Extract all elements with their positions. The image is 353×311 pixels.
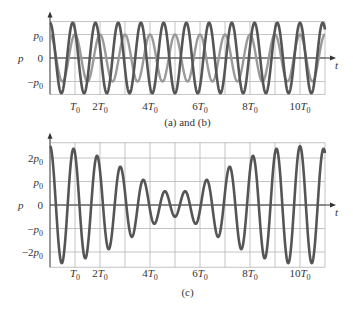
y-tick-label: p0 bbox=[33, 176, 44, 191]
y-axis-arrow-icon bbox=[48, 12, 53, 18]
x-tick-label: 10T0 bbox=[289, 100, 310, 115]
chart-a-and-b: tpp00−p0T02T04T06T08T010T0(a) and (b) bbox=[17, 12, 339, 129]
x-tick-label: 4T0 bbox=[142, 100, 158, 115]
x-tick-label: 8T0 bbox=[242, 100, 258, 115]
chart-c: tp2p0p00−p0−2p0T02T04T06T08T010T0(c) bbox=[17, 133, 339, 299]
y-tick-label: p0 bbox=[33, 29, 44, 44]
x-tick-label: T0 bbox=[70, 267, 80, 282]
y-axis-label: p bbox=[17, 199, 24, 211]
x-tick-label: 4T0 bbox=[142, 267, 158, 282]
y-tick-label: −2p0 bbox=[22, 246, 43, 261]
x-tick-label: 10T0 bbox=[289, 267, 310, 282]
y-tick-label: 0 bbox=[38, 199, 44, 211]
x-tick-label: 6T0 bbox=[192, 267, 208, 282]
x-tick-label: 2T0 bbox=[92, 267, 108, 282]
x-tick-label: T0 bbox=[70, 100, 80, 115]
y-tick-label: −p0 bbox=[27, 76, 43, 91]
x-axis-label: t bbox=[335, 59, 339, 71]
y-tick-label: 0 bbox=[38, 52, 44, 64]
y-tick-label: −p0 bbox=[27, 223, 43, 238]
y-tick-label: 2p0 bbox=[28, 152, 43, 167]
x-tick-label: 6T0 bbox=[192, 100, 208, 115]
y-axis-arrow-icon bbox=[48, 133, 53, 139]
caption-c: (c) bbox=[181, 286, 194, 299]
x-tick-label: 8T0 bbox=[242, 267, 258, 282]
figure: tpp00−p0T02T04T06T08T010T0(a) and (b) tp… bbox=[0, 0, 353, 311]
x-axis-label: t bbox=[335, 206, 339, 218]
x-tick-label: 2T0 bbox=[92, 100, 108, 115]
y-axis-label: p bbox=[17, 52, 24, 64]
caption-a-and-b: (a) and (b) bbox=[164, 116, 211, 129]
